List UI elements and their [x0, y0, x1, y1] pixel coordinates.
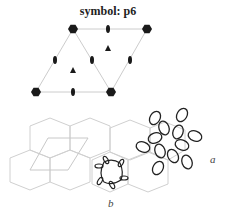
hexagon-icon — [142, 25, 152, 34]
p6-figure: a b — [0, 0, 226, 219]
ellipse-icon — [71, 88, 75, 96]
motif-b — [95, 156, 128, 190]
ellipse-icon — [128, 56, 132, 64]
triangle-icon — [105, 45, 111, 51]
label-b: b — [108, 197, 114, 209]
ellipse-icon — [106, 25, 110, 33]
label-a: a — [210, 153, 216, 165]
triangle-icon — [70, 67, 76, 73]
ellipse-icon — [90, 56, 94, 64]
hexagon-icon — [68, 25, 78, 34]
two-fold-rotation-icons — [53, 25, 132, 96]
motif-a — [135, 106, 204, 176]
ellipse-icon — [53, 56, 57, 64]
hexagon-icon — [31, 88, 41, 97]
hexagon-icon — [106, 88, 116, 97]
